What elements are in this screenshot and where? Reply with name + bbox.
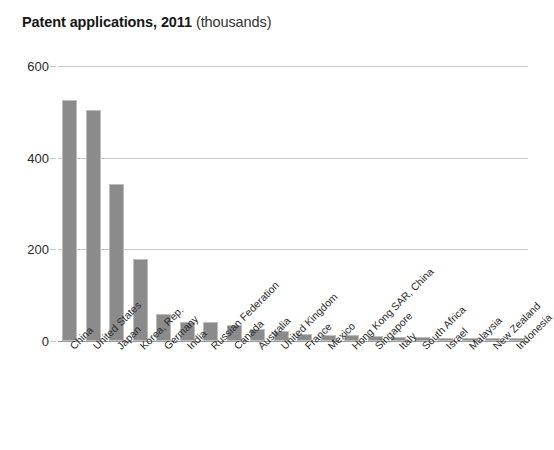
y-tick-mark-600	[50, 66, 56, 67]
chart-title-main: Patent applications, 2011	[22, 14, 192, 30]
y-tick-label-200: 200	[27, 242, 49, 257]
bar-slot	[274, 66, 289, 341]
bar-slot	[462, 66, 477, 341]
bar-slot	[415, 66, 430, 341]
y-tick-mark-200	[50, 249, 56, 250]
bar-slot	[438, 66, 453, 341]
plot-area: 0200400600	[58, 66, 528, 341]
bar-slot	[227, 66, 242, 341]
y-tick-label-600: 600	[27, 59, 49, 74]
chart-title-unit: (thousands)	[196, 14, 271, 30]
bar-slot	[368, 66, 383, 341]
bar-slot	[485, 66, 500, 341]
bar-slot	[156, 66, 171, 341]
bar[interactable]	[86, 110, 101, 341]
bar-slot	[344, 66, 359, 341]
bar-slot	[297, 66, 312, 341]
bar-slot	[86, 66, 101, 341]
y-tick-mark-400	[50, 158, 56, 159]
y-tick-mark-0	[50, 341, 56, 342]
bar-slot	[180, 66, 195, 341]
bar[interactable]	[62, 100, 77, 341]
bar-slot	[109, 66, 124, 341]
bar-slot	[509, 66, 524, 341]
chart-title: Patent applications, 2011 (thousands)	[22, 13, 271, 31]
x-axis-labels: ChinaUnited StatesJapanKorea, Rep.German…	[58, 344, 538, 448]
y-tick-label-0: 0	[42, 334, 49, 349]
bar-slot	[62, 66, 77, 341]
y-tick-label-400: 400	[27, 150, 49, 165]
bar-series	[58, 66, 528, 341]
bar-slot	[203, 66, 218, 341]
